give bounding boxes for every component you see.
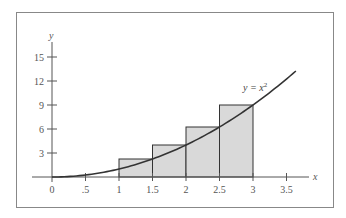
y-tick-label: 6 xyxy=(39,124,44,135)
x-tick-label: 1 xyxy=(117,184,122,195)
curve-label-exponent: 2 xyxy=(264,81,268,89)
x-tick-label: 1.5 xyxy=(146,184,159,195)
riemann-rectangle xyxy=(153,145,187,177)
x-tick-label: 0 xyxy=(50,184,55,195)
y-tick-label: 15 xyxy=(34,52,44,63)
y-tick-label: 3 xyxy=(39,148,44,159)
x-tick-label: 2.5 xyxy=(213,184,226,195)
x-tick-label: 3 xyxy=(251,184,256,195)
riemann-rectangle xyxy=(186,127,220,177)
riemann-sum-chart: 0.511.522.533.53691215 x y y = x2 xyxy=(0,0,346,218)
x-axis-label: x xyxy=(312,171,318,182)
curve-label-text: y = x xyxy=(242,82,264,93)
y-axis-label: y xyxy=(48,30,54,41)
x-tick-label: 3.5 xyxy=(280,184,293,195)
chart-frame xyxy=(17,13,334,208)
x-tick-label: .5 xyxy=(82,184,90,195)
x-tick-label: 2 xyxy=(184,184,189,195)
y-tick-label: 12 xyxy=(34,76,44,87)
y-tick-label: 9 xyxy=(39,100,44,111)
